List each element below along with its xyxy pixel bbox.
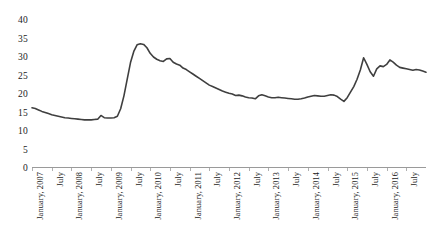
- x-axis-tick-mark: [32, 168, 33, 171]
- x-axis-tick-label: January, 2011: [194, 172, 203, 219]
- y-axis-tick-label: 0: [0, 163, 28, 173]
- x-axis-tick-label: July: [95, 172, 104, 186]
- x-axis-tick-mark: [131, 168, 132, 171]
- y-axis-tick-label: 5: [0, 145, 28, 155]
- x-axis-tick-mark: [190, 168, 191, 171]
- x-axis-tick-mark: [249, 168, 250, 171]
- x-axis-tick-label: July: [135, 172, 144, 186]
- x-axis-labels: January, 2007JulyJanuary, 2008JulyJanuar…: [32, 172, 426, 238]
- x-axis-tick-mark: [288, 168, 289, 171]
- x-axis-tick-label-text: January, 2011: [194, 172, 203, 219]
- x-axis-tick-mark: [308, 168, 309, 171]
- x-axis-tick-label-text: January, 2013: [272, 172, 281, 220]
- x-axis-tick-mark: [209, 168, 210, 171]
- x-axis-tick-label: July: [371, 172, 380, 186]
- x-axis-tick-label-text: July: [135, 172, 144, 186]
- x-axis-tick-label: July: [292, 172, 301, 186]
- x-axis-tick-label: July: [332, 172, 341, 186]
- y-axis-tick-label: 20: [0, 89, 28, 99]
- x-axis-tick-mark: [367, 168, 368, 171]
- x-axis-tick-label-text: January, 2012: [233, 172, 242, 220]
- x-axis-tick-label-text: July: [371, 172, 380, 186]
- x-axis-tick-label-text: January, 2007: [36, 172, 45, 220]
- x-axis-tick-label-text: July: [332, 172, 341, 186]
- y-axis-tick-label: 30: [0, 52, 28, 62]
- x-axis-tick-mark: [71, 168, 72, 171]
- x-axis-tick-label: January, 2013: [272, 172, 281, 220]
- x-axis-tick-mark: [268, 168, 269, 171]
- x-axis-tick-label-text: July: [56, 172, 65, 186]
- x-axis-tick-label: January, 2008: [75, 172, 84, 220]
- x-axis-tick-label-text: July: [213, 172, 222, 186]
- x-axis-tick-label-text: July: [95, 172, 104, 186]
- x-axis-tick-label-text: July: [174, 172, 183, 186]
- y-axis: 0510152025303540: [0, 14, 28, 174]
- data-line: [32, 44, 426, 120]
- x-axis-tick-label: January, 2010: [154, 172, 163, 220]
- x-axis-tick-mark: [229, 168, 230, 171]
- x-axis-tick-label: July: [213, 172, 222, 186]
- y-axis-tick-label: 10: [0, 126, 28, 136]
- x-axis-tick-label: July: [410, 172, 419, 186]
- y-axis-tick-label: 15: [0, 108, 28, 118]
- plot-area: [32, 20, 426, 168]
- x-axis-tick-label-text: July: [292, 172, 301, 186]
- line-series-svg: [32, 20, 426, 168]
- x-axis-tick-mark: [52, 168, 53, 171]
- x-axis-tick-label: January, 2014: [312, 172, 321, 220]
- x-axis-tick-label-text: January, 2016: [391, 172, 400, 220]
- x-axis-tick-label-text: January, 2008: [75, 172, 84, 220]
- x-axis-tick-mark: [170, 168, 171, 171]
- x-axis-tick-label: January, 2016: [391, 172, 400, 220]
- x-axis-tick-label: January, 2007: [36, 172, 45, 220]
- x-axis-tick-label: July: [56, 172, 65, 186]
- x-axis-tick-label: January, 2015: [351, 172, 360, 220]
- x-axis-tick-mark: [347, 168, 348, 171]
- chart-container: 0510152025303540 January, 2007JulyJanuar…: [0, 0, 441, 240]
- x-axis-tick-label-text: January, 2015: [351, 172, 360, 220]
- x-axis-tick-mark: [111, 168, 112, 171]
- x-axis-tick-label: July: [253, 172, 262, 186]
- x-axis-tick-label-text: January, 2009: [115, 172, 124, 220]
- x-axis-tick-mark: [387, 168, 388, 171]
- x-axis-tick-label: July: [174, 172, 183, 186]
- x-axis-tick-label-text: July: [253, 172, 262, 186]
- x-axis-tick-label-text: January, 2010: [154, 172, 163, 220]
- x-axis-tick-label: January, 2012: [233, 172, 242, 220]
- x-axis-tick-mark: [91, 168, 92, 171]
- y-axis-tick-label: 25: [0, 71, 28, 81]
- y-axis-tick-label: 40: [0, 15, 28, 25]
- x-axis-tick-label-text: January, 2014: [312, 172, 321, 220]
- x-axis-tick-label: January, 2009: [115, 172, 124, 220]
- x-axis-tick-mark: [328, 168, 329, 171]
- y-axis-tick-label: 35: [0, 34, 28, 44]
- x-axis-tick-mark: [150, 168, 151, 171]
- x-axis-tick-label-text: July: [410, 172, 419, 186]
- x-axis-tick-mark: [406, 168, 407, 171]
